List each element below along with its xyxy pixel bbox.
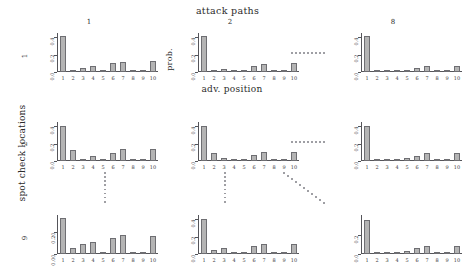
bar <box>281 252 287 254</box>
y-tick-label: 0.4 <box>192 219 197 227</box>
x-tick-label: 5 <box>239 164 249 170</box>
x-tick-label: 10 <box>289 75 299 81</box>
x-tick-label: 9 <box>138 75 148 81</box>
bar <box>271 159 277 161</box>
x-tick-label: 9 <box>279 75 289 81</box>
y-tick-label: 0.4 <box>355 126 360 134</box>
bar <box>364 220 370 254</box>
x-tick-label: 6 <box>108 257 118 263</box>
plot-area <box>199 215 299 254</box>
bar <box>374 70 380 72</box>
y-tick-label: 0.2 <box>192 55 197 63</box>
bar <box>394 70 400 72</box>
x-tick-label: 3 <box>219 75 229 81</box>
bar <box>364 36 370 72</box>
bar <box>120 149 126 161</box>
x-tick-label: 1 <box>199 164 209 170</box>
plot-area <box>362 215 462 254</box>
x-tick-label: 4 <box>229 257 239 263</box>
bar <box>211 153 217 161</box>
figure-left-title: spot check locations <box>17 93 27 213</box>
x-tick-label: 2 <box>209 164 219 170</box>
bar <box>100 70 106 72</box>
bar <box>100 159 106 161</box>
bar <box>100 252 106 254</box>
x-tick-label: 5 <box>98 164 108 170</box>
x-tick-label: 5 <box>239 257 249 263</box>
column-label-2: 2 <box>210 18 250 26</box>
y-tick-label: 0.0 <box>355 254 360 262</box>
bar <box>404 70 410 72</box>
x-tick-label: 9 <box>279 257 289 263</box>
bar <box>60 218 66 254</box>
x-tick-label: 7 <box>259 164 269 170</box>
bar <box>90 156 96 161</box>
plot-area <box>58 122 158 161</box>
bar <box>90 66 96 72</box>
y-tick-label: 0.2 <box>51 55 56 63</box>
x-tick-label: 5 <box>402 75 412 81</box>
x-tick-label: 1 <box>199 257 209 263</box>
figure-top-title: attack paths <box>0 5 455 16</box>
x-tick-label: 2 <box>209 257 219 263</box>
x-tick-label: 7 <box>118 75 128 81</box>
y-tick-label: 0.4 <box>355 37 360 45</box>
x-tick-label: 3 <box>219 164 229 170</box>
x-tick-label: 7 <box>118 164 128 170</box>
bar <box>404 251 410 254</box>
x-tick-label: 2 <box>372 257 382 263</box>
bar <box>80 244 86 254</box>
bar <box>434 252 440 254</box>
bar <box>150 149 156 161</box>
x-tick-label: 10 <box>452 164 462 170</box>
x-tick-label: 6 <box>412 164 422 170</box>
x-tick-label: 9 <box>138 257 148 263</box>
bar <box>70 70 76 72</box>
bar <box>444 70 450 72</box>
bar <box>110 238 116 254</box>
bar <box>231 159 237 161</box>
y-tick-label: 0.0 <box>355 161 360 169</box>
bar-panel-r9-c2: 0.00.20.412345678910 <box>181 215 299 267</box>
x-tick-label: 3 <box>78 75 88 81</box>
bar <box>364 126 370 161</box>
bar <box>201 126 207 161</box>
bar <box>261 152 267 161</box>
bar-panel-r2-c8: 0.00.20.412345678910 <box>344 122 462 174</box>
bar <box>251 246 257 254</box>
x-tick-label: 4 <box>88 75 98 81</box>
x-tick-label: 6 <box>249 257 259 263</box>
bar <box>120 62 126 72</box>
bar <box>241 252 247 254</box>
y-tick-label: 0.00 <box>51 254 56 265</box>
bar-panel-r9-c8: 0.00.212345678910 <box>344 215 462 267</box>
bar <box>424 153 430 161</box>
x-tick-label: 8 <box>432 257 442 263</box>
column-label-3: 8 <box>373 18 413 26</box>
bar <box>281 70 287 72</box>
x-tick-label: 6 <box>412 257 422 263</box>
x-tick-label: 4 <box>88 164 98 170</box>
bar <box>90 242 96 254</box>
bar <box>271 252 277 254</box>
bar <box>384 159 390 161</box>
bar <box>434 70 440 72</box>
bar <box>291 244 297 254</box>
bar <box>130 252 136 254</box>
bar <box>444 159 450 161</box>
bar <box>140 70 146 72</box>
x-tick-label: 10 <box>452 75 462 81</box>
x-tick-label: 6 <box>108 75 118 81</box>
bar <box>414 156 420 161</box>
x-tick-label: 10 <box>289 164 299 170</box>
bar <box>70 150 76 161</box>
y-tick-label: 0.20 <box>51 232 56 243</box>
x-tick-label: 1 <box>58 257 68 263</box>
x-tick-label: 8 <box>432 164 442 170</box>
x-tick-label: 4 <box>392 164 402 170</box>
y-tick-label: 0.2 <box>355 55 360 63</box>
x-tick-label: 4 <box>88 257 98 263</box>
bar <box>140 159 146 161</box>
y-axis-label: prob. <box>165 48 174 70</box>
x-tick-label: 4 <box>229 75 239 81</box>
